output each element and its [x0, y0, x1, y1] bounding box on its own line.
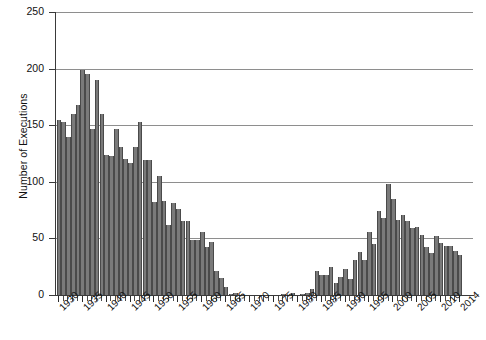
x-tick-1935: [82, 296, 83, 302]
y-tick-label-50: 50: [0, 231, 44, 243]
y-tick-label-200: 200: [0, 62, 44, 74]
x-axis-labels: 1930193519401945195019551960196519701975…: [0, 303, 486, 340]
x-tick-1980: [297, 296, 298, 302]
y-tick-label-250: 250: [0, 5, 44, 17]
y-tick-label-150: 150: [0, 118, 44, 130]
x-tick-2010: [440, 296, 441, 302]
bar: [458, 255, 463, 295]
y-axis-title: Number of Executions: [17, 61, 29, 231]
x-tick-1985: [321, 296, 322, 302]
x-tick-1970: [249, 296, 250, 302]
y-tick-label-100: 100: [0, 175, 44, 187]
x-tick-1940: [106, 296, 107, 302]
x-tick-1930: [58, 296, 59, 302]
executions-bar-chart: Number of Executions 050100150200250 193…: [0, 0, 486, 340]
y-tick-label-0: 0: [0, 288, 44, 300]
x-tick-1945: [130, 296, 131, 302]
bar-series: [55, 12, 473, 295]
x-tick-1975: [273, 296, 274, 302]
x-tick-1990: [345, 296, 346, 302]
